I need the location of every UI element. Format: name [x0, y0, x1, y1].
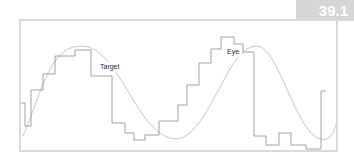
figure-panel: 39.1 Target Eye — [0, 0, 354, 163]
figure-number-label: 39.1 — [296, 0, 348, 21]
eye-series-label: Eye — [225, 47, 241, 57]
plot-frame: Target Eye — [19, 19, 338, 152]
plot-canvas — [21, 21, 336, 150]
eye-staircase — [21, 37, 326, 149]
target-series-label: Target — [98, 62, 121, 72]
target-curve — [23, 46, 336, 140]
